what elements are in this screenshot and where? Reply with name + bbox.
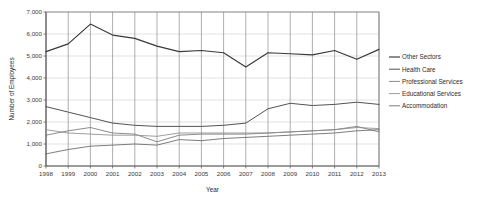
chart-legend: Other SectorsHealth CareProfessional Ser… xyxy=(389,53,463,109)
y-axis: 01,0002,0003,0004,0005,0006,0007,000 xyxy=(27,8,46,169)
line-chart: 01,0002,0003,0004,0005,0006,0007,000 199… xyxy=(0,0,486,205)
vertical-gridlines xyxy=(46,12,379,166)
legend-item-label: Accommodation xyxy=(402,102,448,109)
horizontal-gridlines xyxy=(46,12,379,144)
x-axis-tick-label: 2001 xyxy=(106,170,120,177)
x-axis-tick-label: 2006 xyxy=(217,170,231,177)
y-axis-tick-label: 6,000 xyxy=(27,30,43,37)
x-axis-tick-label: 2007 xyxy=(239,170,253,177)
chart-container: 01,0002,0003,0004,0005,0006,0007,000 199… xyxy=(0,0,486,205)
y-axis-tick-label: 2,000 xyxy=(27,118,43,125)
y-axis-title: Number of Employees xyxy=(8,57,16,120)
x-axis-tick-label: 2013 xyxy=(372,170,386,177)
legend-item-label: Health Care xyxy=(402,66,436,73)
data-series-group xyxy=(46,24,379,154)
legend-item-label: Other Sectors xyxy=(402,53,441,60)
x-axis-tick-label: 2011 xyxy=(328,170,342,177)
x-axis-tick-label: 1999 xyxy=(61,170,75,177)
x-axis-tick-label: 2004 xyxy=(172,170,186,177)
y-axis-tick-label: 5,000 xyxy=(27,52,43,59)
x-axis-tick-label: 2009 xyxy=(283,170,297,177)
legend-item-label: Educational Services xyxy=(402,90,461,97)
x-axis-tick-label: 1998 xyxy=(39,170,53,177)
y-axis-tick-label: 0 xyxy=(39,162,43,169)
x-axis-tick-label: 2002 xyxy=(128,170,142,177)
x-axis-tick-label: 2012 xyxy=(350,170,364,177)
y-axis-tick-label: 1,000 xyxy=(27,140,43,147)
x-axis-tick-label: 2005 xyxy=(195,170,209,177)
y-axis-tick-label: 4,000 xyxy=(27,74,43,81)
y-axis-tick-label: 7,000 xyxy=(27,8,43,15)
x-axis-tick-label: 2008 xyxy=(261,170,275,177)
x-axis-tick-label: 2003 xyxy=(150,170,164,177)
y-axis-tick-label: 3,000 xyxy=(27,96,43,103)
x-axis-title: Year xyxy=(206,186,220,193)
series-line xyxy=(46,102,379,126)
series-line xyxy=(46,24,379,67)
legend-item-label: Professional Services xyxy=(402,78,463,85)
x-axis: 1998199920002001200220032004200520062007… xyxy=(39,166,386,177)
x-axis-tick-label: 2000 xyxy=(84,170,98,177)
x-axis-tick-label: 2010 xyxy=(306,170,320,177)
plot-area-border xyxy=(46,12,379,166)
